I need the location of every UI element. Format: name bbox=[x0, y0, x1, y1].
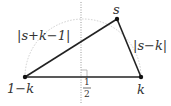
half-numerator: 1 bbox=[84, 77, 90, 87]
right-angle-marker bbox=[81, 70, 87, 77]
label-right: k bbox=[137, 82, 145, 97]
label-edge-left-top: |s+k−1| bbox=[17, 28, 70, 43]
half-denominator: 2 bbox=[84, 89, 90, 99]
vertex-top bbox=[115, 17, 119, 21]
triangle-diagram: s k 1−k |s+k−1| |s−k| 1 2 bbox=[0, 0, 171, 106]
vertex-right bbox=[139, 75, 143, 79]
vertex-left bbox=[23, 75, 27, 79]
label-top: s bbox=[113, 2, 120, 17]
label-left: 1−k bbox=[7, 81, 34, 96]
label-edge-top-right: |s−k| bbox=[133, 38, 167, 53]
